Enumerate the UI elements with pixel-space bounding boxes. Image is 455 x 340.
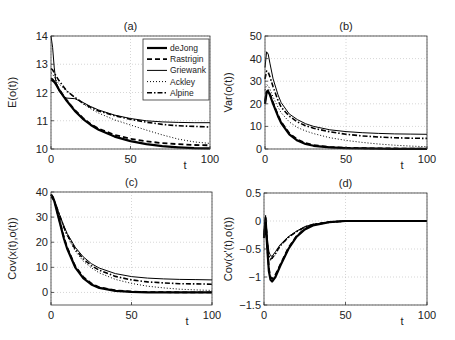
y-tick-label: −1.5 [239, 299, 261, 311]
legend-label-dejong: deJong [170, 43, 198, 53]
y-tick-label: 13 [36, 58, 48, 70]
y-tick-label: −1 [248, 271, 261, 283]
y-tick-label: 40 [36, 186, 48, 198]
x-axis-label: t [183, 159, 186, 171]
y-tick-label: 11 [37, 115, 48, 127]
x-tick-label: 0 [262, 153, 268, 165]
x-tick-label: 50 [339, 309, 351, 321]
y-tick-label: 40 [250, 53, 262, 65]
y-tick-label: 10 [36, 261, 48, 273]
x-tick-label: 0 [261, 309, 267, 321]
y-tick-label: 0 [255, 215, 261, 227]
y-tick-label: 10 [36, 143, 48, 155]
x-tick-label: 100 [418, 153, 436, 165]
y-axis-label: E(o(t)) [6, 77, 18, 108]
y-tick-label: 0 [42, 286, 48, 298]
x-axis-label: t [400, 315, 403, 327]
y-tick-label: 30 [36, 211, 48, 223]
x-tick-label: 50 [125, 309, 137, 321]
x-tick-label: 100 [418, 309, 436, 321]
panel-title: (a) [124, 20, 137, 32]
x-tick-label: 100 [201, 153, 219, 165]
legend: deJongRastriginGriewankAckleyAlpine [143, 39, 209, 100]
legend-label-ackley: Ackley [170, 77, 196, 87]
y-tick-label: 20 [36, 236, 48, 248]
y-tick-label: 30 [250, 75, 262, 87]
x-tick-label: 0 [48, 309, 54, 321]
x-tick-label: 100 [203, 309, 221, 321]
y-axis-label: Cov(x(t),o(t)) [6, 217, 18, 279]
legend-label-rastrigin: Rastrigin [170, 54, 204, 64]
y-axis-label: Var(o(t)) [222, 72, 234, 112]
x-axis-label: t [185, 315, 188, 327]
panel-c: 010203040050100(c)tCov(x(t),o(t)) [6, 176, 221, 327]
y-tick-label: 0.5 [246, 187, 261, 199]
x-tick-label: 50 [124, 153, 136, 165]
x-tick-label: 0 [48, 153, 54, 165]
x-axis-label: t [400, 159, 403, 171]
y-tick-label: 20 [250, 98, 262, 110]
y-tick-label: 14 [36, 30, 48, 42]
y-tick-label: 12 [36, 87, 48, 99]
x-tick-label: 50 [340, 153, 352, 165]
legend-label-alpine: Alpine [170, 88, 194, 98]
y-tick-label: 10 [250, 120, 262, 132]
legend-label-griewank: Griewank [170, 65, 207, 75]
y-tick-label: 50 [250, 30, 262, 42]
panel-title: (b) [339, 20, 352, 32]
figure: 1011121314050100(a)tE(o(t))0102030405005… [0, 0, 455, 340]
y-axis-label: Cov(x'(t),o(t)) [222, 217, 234, 281]
panel-d: −1.5−1−0.500.5050100(d)tCov(x'(t),o(t)) [222, 177, 436, 327]
panel-title: (c) [125, 176, 138, 188]
y-tick-label: −0.5 [239, 243, 261, 255]
panel-title: (d) [339, 177, 352, 189]
panel-b: 01020304050050100(b)tVar(o(t)) [222, 20, 436, 171]
